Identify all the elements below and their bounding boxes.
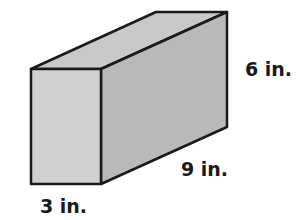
width-dimension-label: 3 in. [40, 197, 87, 216]
prism-front-face [31, 69, 101, 184]
rectangular-prism-diagram [0, 0, 301, 220]
length-dimension-label: 9 in. [181, 160, 228, 179]
height-dimension-label: 6 in. [245, 60, 292, 79]
